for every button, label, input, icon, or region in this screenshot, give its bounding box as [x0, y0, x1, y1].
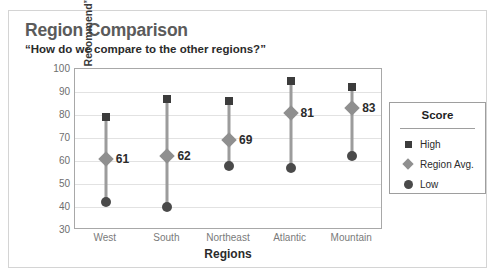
low-marker[interactable] — [101, 197, 111, 207]
high-marker[interactable] — [287, 77, 295, 85]
region-average-marker[interactable] — [283, 105, 299, 121]
diamond-marker-icon — [401, 160, 415, 168]
legend-item[interactable]: Low — [401, 177, 438, 191]
x-axis-title: Regions — [74, 247, 382, 261]
y-axis-tick-label: 70 — [48, 132, 70, 143]
high-marker[interactable] — [102, 113, 110, 121]
x-axis-tick-label: Mountain — [331, 232, 372, 243]
low-marker[interactable] — [162, 202, 172, 212]
high-marker[interactable] — [348, 83, 356, 91]
region-average-marker[interactable] — [344, 100, 360, 116]
gridline — [75, 207, 381, 208]
y-axis-tick-label: 80 — [48, 109, 70, 120]
y-axis-tick-label: 50 — [48, 178, 70, 189]
data-label: 81 — [301, 106, 314, 120]
high-marker[interactable] — [163, 95, 171, 103]
data-label: 69 — [239, 133, 252, 147]
y-axis-tick-label: 60 — [48, 155, 70, 166]
legend-title: Score — [390, 109, 485, 121]
y-axis-tick-label: 30 — [48, 224, 70, 235]
plot-area: 6162698183 — [74, 68, 382, 229]
legend-item-label: Region Avg. — [420, 159, 474, 170]
region-average-marker[interactable] — [221, 133, 237, 149]
gridline — [75, 184, 381, 185]
x-axis-tick-label: Atlantic — [273, 232, 306, 243]
low-marker[interactable] — [286, 163, 296, 173]
x-axis-tick-labels: WestSouthNortheastAtlanticMountain — [74, 232, 382, 246]
x-axis-tick-label: Northeast — [206, 232, 249, 243]
gridline — [75, 92, 381, 93]
x-axis-tick-label: West — [93, 232, 116, 243]
legend: Score HighRegion Avg.Low — [389, 102, 486, 194]
range-stem — [351, 87, 354, 156]
y-axis-tick-labels: 10090807060504030 — [46, 68, 70, 229]
y-axis-tick-label: 100 — [48, 63, 70, 74]
legend-item-label: High — [420, 139, 441, 150]
low-marker[interactable] — [224, 161, 234, 171]
chart-subtitle: “How do we compare to the other regions?… — [25, 43, 266, 55]
legend-item[interactable]: Region Avg. — [401, 157, 474, 171]
chart-title: Region Comparison — [25, 20, 188, 41]
range-stem — [289, 81, 292, 168]
y-axis-tick-label: 40 — [48, 201, 70, 212]
legend-item[interactable]: High — [401, 137, 441, 151]
chart-card: Region Comparison “How do we compare to … — [8, 10, 487, 268]
data-label: 62 — [177, 149, 190, 163]
y-axis-tick-label: 90 — [48, 86, 70, 97]
circle-marker-icon — [401, 180, 415, 189]
low-marker[interactable] — [347, 151, 357, 161]
legend-item-label: Low — [420, 179, 438, 190]
region-average-marker[interactable] — [98, 151, 114, 167]
data-label: 83 — [362, 101, 375, 115]
high-marker[interactable] — [225, 97, 233, 105]
square-marker-icon — [401, 141, 415, 148]
data-label: 61 — [116, 152, 129, 166]
legend-divider — [400, 128, 475, 129]
x-axis-tick-label: South — [153, 232, 179, 243]
